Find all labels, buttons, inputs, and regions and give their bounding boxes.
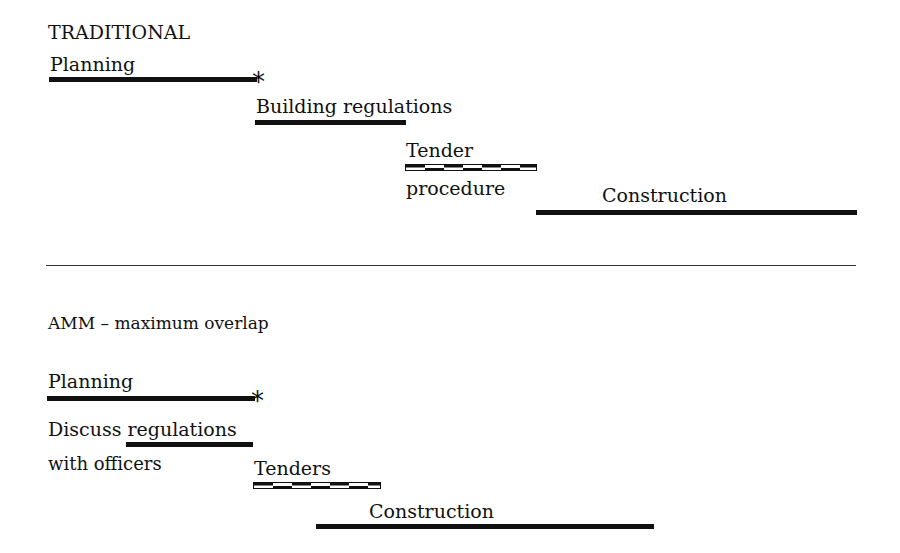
traditional-construction-label: Construction <box>602 185 727 205</box>
traditional-building-regulations-label: Building regulations <box>256 96 452 116</box>
traditional-tender-bar <box>405 164 537 171</box>
amm-title: AMM – maximum overlap <box>48 313 269 333</box>
traditional-construction-bar <box>536 210 857 215</box>
traditional-building-regulations-bar <box>255 120 406 125</box>
traditional-procedure-label: procedure <box>406 178 505 198</box>
amm-with-officers-label: with officers <box>48 454 162 474</box>
section-divider <box>46 265 856 266</box>
milestone-star-icon: * <box>252 72 265 92</box>
amm-planning-bar <box>47 396 255 401</box>
amm-tenders-label: Tenders <box>254 458 331 478</box>
amm-tenders-bar <box>253 482 381 489</box>
traditional-title: TRADITIONAL <box>48 22 190 42</box>
amm-discuss-bar <box>126 442 253 447</box>
amm-construction-bar <box>316 524 654 529</box>
milestone-star-icon: * <box>251 391 264 411</box>
traditional-planning-label: Planning <box>50 54 135 74</box>
traditional-tender-label: Tender <box>406 140 473 160</box>
amm-construction-label: Construction <box>369 501 494 521</box>
traditional-planning-bar <box>49 77 257 82</box>
amm-discuss-label: Discuss regulations <box>48 419 237 439</box>
amm-planning-label: Planning <box>48 371 133 391</box>
